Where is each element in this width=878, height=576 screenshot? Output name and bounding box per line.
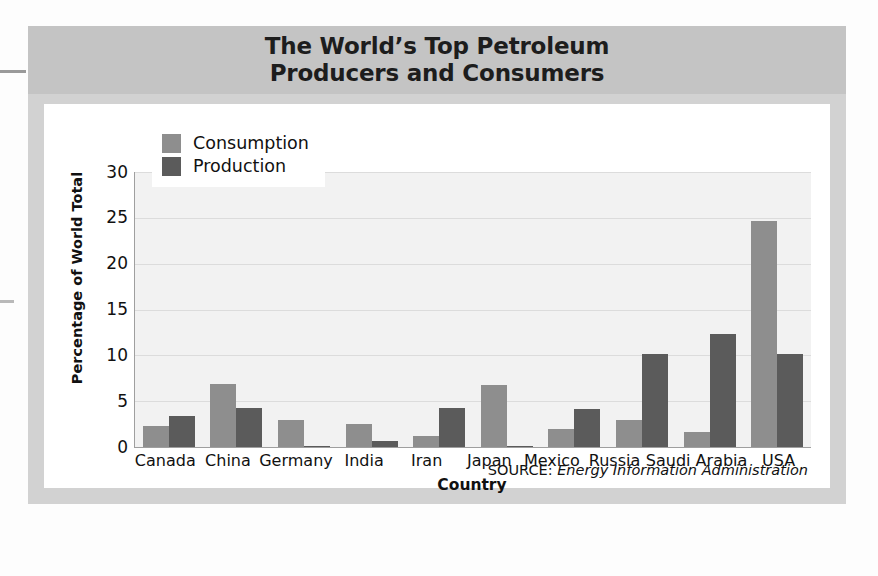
chart-card: Percentage of World Total 30 25 20 15 10… [44, 104, 830, 488]
bar-group [473, 172, 541, 447]
bar-production-mexico [574, 409, 600, 448]
plot-area [134, 172, 811, 448]
y-tick-25: 25 [106, 207, 128, 227]
bar-group [135, 172, 203, 447]
plot-wrapper: Percentage of World Total 30 25 20 15 10… [44, 104, 830, 488]
legend-swatch-consumption-icon [162, 134, 181, 153]
bar-consumption-russia [616, 420, 642, 447]
bar-consumption-germany [278, 420, 304, 448]
bar-production-japan [507, 446, 533, 447]
bar-consumption-canada [143, 426, 169, 447]
y-axis-title: Percentage of World Total [69, 153, 85, 403]
title-band: The World’s Top Petroleum Producers and … [28, 26, 846, 94]
x-label-china: China [197, 451, 260, 470]
bar-group [338, 172, 406, 447]
legend-swatch-production-icon [162, 157, 181, 176]
y-tick-20: 20 [106, 253, 128, 273]
scan-artifact-line-left [0, 300, 14, 303]
source-value: Energy Information Administration [557, 462, 808, 478]
x-label-canada: Canada [134, 451, 197, 470]
legend-label-production: Production [193, 156, 286, 176]
bar-group [203, 172, 271, 447]
bar-production-canada [169, 416, 195, 447]
chart-legend: Consumption Production [152, 124, 325, 187]
bar-production-saudi-arabia [710, 334, 736, 447]
y-tick-30: 30 [106, 162, 128, 182]
y-tick-10: 10 [106, 345, 128, 365]
bar-consumption-usa [751, 221, 777, 447]
bar-production-iran [439, 408, 465, 447]
bar-group [270, 172, 338, 447]
y-axis-tick-labels: 30 25 20 15 10 5 0 [90, 104, 132, 488]
bar-consumption-mexico [548, 429, 574, 447]
bar-groups [135, 172, 811, 447]
bar-production-china [236, 408, 262, 447]
scanned-page: The World’s Top Petroleum Producers and … [0, 0, 878, 576]
source-note: SOURCE: Energy Information Administratio… [488, 462, 808, 478]
bar-group [541, 172, 609, 447]
scan-artifact-line-top [0, 70, 26, 73]
legend-item-consumption: Consumption [162, 133, 309, 153]
chart-title: The World’s Top Petroleum Producers and … [265, 33, 609, 86]
bar-production-russia [642, 354, 668, 448]
x-label-india: India [333, 451, 396, 470]
bar-consumption-saudi-arabia [684, 432, 710, 447]
bar-consumption-china [210, 384, 236, 447]
source-label: SOURCE: [488, 462, 553, 478]
y-tick-0: 0 [117, 437, 128, 457]
legend-item-production: Production [162, 156, 309, 176]
bar-group [743, 172, 811, 447]
y-tick-15: 15 [106, 299, 128, 319]
bar-group [676, 172, 744, 447]
x-label-iran: Iran [395, 451, 458, 470]
bar-consumption-japan [481, 385, 507, 447]
bar-group [608, 172, 676, 447]
bar-group [405, 172, 473, 447]
x-axis-title: Country [134, 476, 810, 494]
x-label-germany: Germany [259, 451, 333, 470]
bar-production-india [372, 441, 398, 447]
figure-panel: The World’s Top Petroleum Producers and … [28, 26, 846, 504]
bar-production-usa [777, 354, 803, 448]
y-tick-5: 5 [117, 391, 128, 411]
legend-label-consumption: Consumption [193, 133, 309, 153]
bar-consumption-india [346, 424, 372, 447]
bar-production-germany [304, 446, 330, 447]
bar-consumption-iran [413, 436, 439, 447]
